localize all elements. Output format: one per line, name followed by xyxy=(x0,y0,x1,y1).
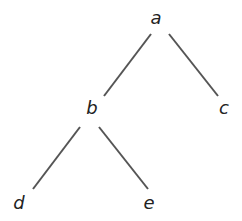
node-c: c xyxy=(219,97,229,118)
edge-a-c xyxy=(169,34,218,96)
edges xyxy=(33,34,218,189)
tree-diagram: a b c d e xyxy=(0,0,242,221)
node-a: a xyxy=(150,7,161,28)
node-b: b xyxy=(86,97,97,118)
edge-b-e xyxy=(99,127,148,189)
nodes: a b c d e xyxy=(13,7,229,213)
node-e: e xyxy=(143,192,154,213)
edge-b-d xyxy=(33,127,80,189)
edge-a-b xyxy=(104,34,151,96)
node-d: d xyxy=(13,192,25,213)
